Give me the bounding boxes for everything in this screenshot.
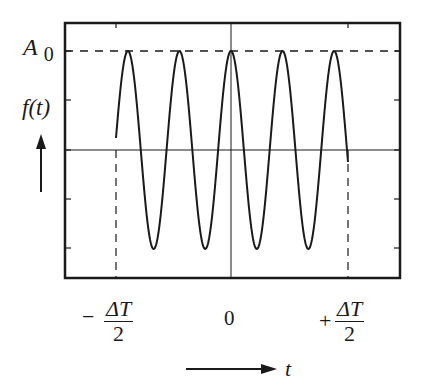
- x-axis-label: t: [285, 356, 291, 382]
- right-bound-denominator: 2: [344, 322, 355, 346]
- left-bound-denominator: 2: [113, 322, 124, 346]
- left-bound-fraction: ΔT 2: [104, 297, 133, 346]
- zero-tick-label: 0: [224, 306, 235, 331]
- right-bound-numerator: ΔT: [335, 297, 364, 322]
- left-bound-sign: −: [82, 304, 94, 330]
- right-bound-fraction: ΔT 2: [335, 297, 364, 346]
- y-axis-label: f(t): [22, 95, 50, 121]
- amplitude-label: A0: [23, 34, 54, 61]
- arrow-up-icon: [36, 134, 46, 149]
- amplitude-label-main: A: [23, 34, 38, 60]
- arrow-right-icon: [261, 364, 277, 374]
- left-bound-numerator: ΔT: [104, 297, 133, 322]
- waveform-plot: [0, 0, 435, 388]
- amplitude-label-sub: 0: [44, 43, 54, 65]
- right-bound-sign: +: [319, 308, 331, 334]
